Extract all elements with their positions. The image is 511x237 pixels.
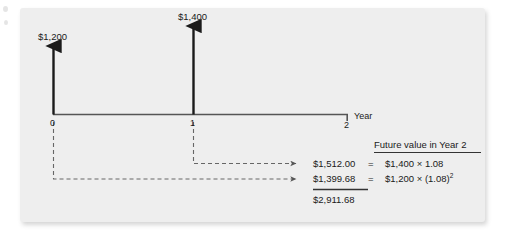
calc-row-equals: = <box>368 174 374 184</box>
timeline-axis <box>53 115 348 122</box>
calc-expression-exponent: 2 <box>450 172 454 179</box>
dashed-path-year0 <box>54 122 297 179</box>
tick-label-1: 1 <box>190 119 195 128</box>
calc-row-expression: $1,400 × 1.08 <box>385 159 443 169</box>
calc-expression-base: $1,400 × 1.08 <box>385 158 443 169</box>
cash-flow-label-year1: $1,400 <box>178 12 207 22</box>
calc-row-value: $1,512.00 <box>313 159 355 169</box>
axis-label-year: Year <box>354 112 372 121</box>
calc-total-value: $2,911.68 <box>313 195 355 205</box>
calc-expression-base: $1,200 × (1.08) <box>385 173 450 184</box>
cash-flow-label-year0: $1,200 <box>38 32 67 42</box>
dashed-path-year1 <box>194 122 297 164</box>
calc-row-equals: = <box>368 159 374 169</box>
calc-header: Future value in Year 2 <box>374 140 466 150</box>
tick-label-0: 0 <box>50 119 55 128</box>
tick-label-2: 2 <box>344 121 349 130</box>
calc-row-expression: $1,200 × (1.08)2 <box>385 174 453 184</box>
calc-row-value: $1,399.68 <box>313 174 355 184</box>
timeline-diagram <box>0 0 511 237</box>
